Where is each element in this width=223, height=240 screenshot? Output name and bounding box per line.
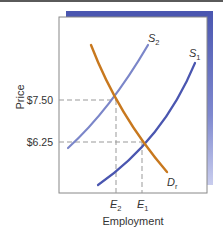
y-tick-750: $7.50 <box>27 94 53 106</box>
x-tick-e2: E2 <box>110 198 122 213</box>
x-tick-e1: E1 <box>137 198 149 213</box>
y-axis-title: Price <box>14 84 26 109</box>
x-axis-title: Employment <box>102 215 163 227</box>
y-tick-625: $6.25 <box>27 136 53 148</box>
plot-frame <box>59 17 207 193</box>
chart: S2 S1 Dr $7.50 $6.25 E2 E1 Employment Pr… <box>0 0 223 240</box>
